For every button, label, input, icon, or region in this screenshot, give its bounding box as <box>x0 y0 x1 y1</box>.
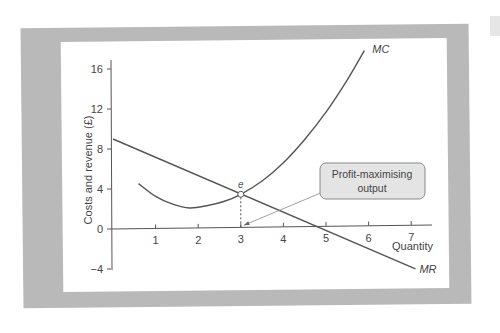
equilibrium-label: e <box>238 179 244 190</box>
mr-label: MR <box>419 263 436 275</box>
y-tick-label: 16 <box>91 63 103 75</box>
x-tick-label: 6 <box>366 232 372 244</box>
chart-canvas: 1612840−4 1234567 Costs and revenue (£) … <box>0 0 500 333</box>
callout-text-line2: output <box>357 182 386 194</box>
y-tick-label: 0 <box>97 223 103 235</box>
y-tick-label: 8 <box>97 143 103 155</box>
y-tick-label: −4 <box>90 263 103 275</box>
x-tick-label: 5 <box>323 232 329 244</box>
x-tick-label: 4 <box>280 233 286 245</box>
x-tick-label: 2 <box>195 234 201 246</box>
x-ticks: 1234567 <box>153 221 415 246</box>
y-axis <box>111 60 112 270</box>
mr-curve <box>113 139 415 269</box>
y-tick-label: 12 <box>91 103 103 115</box>
callout-arrowhead <box>244 221 250 225</box>
x-tick-label: 1 <box>153 234 159 246</box>
equilibrium-point <box>238 191 244 197</box>
x-tick-label: 3 <box>238 233 244 245</box>
callout-pointer <box>244 192 323 225</box>
x-axis <box>111 225 432 229</box>
x-axis-label: Quantity <box>392 240 433 252</box>
callout-text-line1: Profit-maximising <box>332 168 413 180</box>
mc-label: MC <box>372 43 389 55</box>
y-axis-label: Costs and revenue (£) <box>82 116 94 225</box>
y-tick-label: 4 <box>97 183 103 195</box>
